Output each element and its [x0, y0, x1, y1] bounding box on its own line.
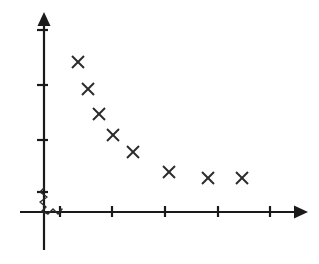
scatter-plot-figure: [0, 0, 319, 264]
data-point: [93, 108, 105, 120]
data-point: [127, 146, 139, 158]
data-point: [72, 56, 84, 68]
data-point: [82, 83, 94, 95]
data-markers: [72, 56, 248, 184]
x-axis-arrow-icon: [294, 206, 308, 219]
y-axis-arrow-icon: [38, 12, 51, 26]
data-point: [236, 172, 248, 184]
y-axis-ticks: [37, 30, 48, 192]
data-point: [163, 166, 175, 178]
data-point: [107, 129, 119, 141]
data-point: [202, 172, 214, 184]
plot-canvas: [0, 0, 319, 264]
